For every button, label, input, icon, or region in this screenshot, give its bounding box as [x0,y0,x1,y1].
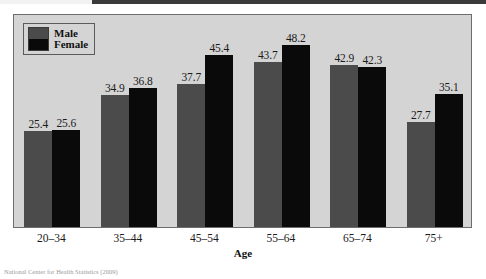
bar-male-20-34 [24,131,52,227]
bar-male-75+ [407,122,435,227]
legend-swatch-male [29,28,48,39]
plot-area: Male Female 25.425.634.936.837.745.443.7… [14,15,471,227]
bar-male-35-44 [101,95,129,227]
bar-value-label: 48.2 [277,32,315,44]
legend-label-female: Female [54,39,88,51]
bar-female-65-74 [358,67,386,227]
source-note: National Center for Health Statistics (2… [4,268,118,275]
x-tick-label: 35–44 [88,232,168,244]
bar-female-55-64 [282,45,310,227]
bar-group: 37.745.4 [177,15,233,227]
bar-group: 43.748.2 [254,15,310,227]
x-tick-label: 45–54 [164,232,244,244]
bar-value-label: 25.6 [47,117,85,129]
x-tick-label: 75+ [394,232,474,244]
bar-female-35-44 [129,88,157,227]
legend-swatch-group [28,27,49,51]
x-tick-label: 65–74 [317,232,397,244]
x-tick-label: 55–64 [241,232,321,244]
x-tick-label: 20–34 [11,232,91,244]
bar-group: 34.936.8 [101,15,157,227]
bar-value-label: 36.8 [124,75,162,87]
legend-label-group: Male Female [54,28,88,51]
bar-male-55-64 [254,62,282,227]
bar-female-45-54 [205,55,233,227]
chart-frame: Male Female 25.425.634.936.837.745.443.7… [13,14,472,228]
bar-male-65-74 [330,65,358,227]
top-dark-band [92,0,486,4]
bar-value-label: 42.3 [353,54,391,66]
bar-value-label: 35.1 [430,81,468,93]
bar-female-75+ [435,94,463,227]
x-axis-title: Age [0,247,486,259]
bar-value-label: 45.4 [200,42,238,54]
bar-group: 27.735.1 [407,15,463,227]
bar-group: 42.942.3 [330,15,386,227]
legend-swatch-female [29,39,48,50]
chart-legend: Male Female [23,23,95,55]
bar-male-45-54 [177,84,205,227]
top-decorative-band [0,0,486,4]
bar-female-20-34 [52,130,80,227]
